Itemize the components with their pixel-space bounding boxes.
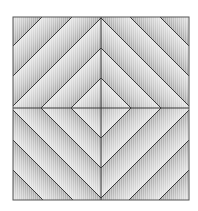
pattern-bands <box>0 0 198 211</box>
diamond-pattern-figure <box>0 0 198 211</box>
